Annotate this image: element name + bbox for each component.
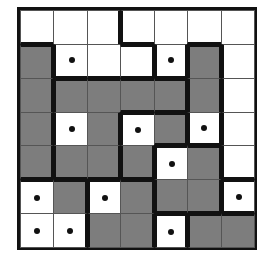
grid-cell[interactable] bbox=[221, 78, 255, 113]
grid-cell[interactable] bbox=[120, 44, 154, 79]
grid-cell[interactable] bbox=[187, 145, 221, 180]
grid-cell[interactable] bbox=[187, 179, 221, 214]
grid-cell[interactable] bbox=[154, 145, 188, 180]
grid-cell[interactable] bbox=[53, 112, 87, 147]
grid-cell[interactable] bbox=[221, 145, 255, 180]
grid-cell[interactable] bbox=[87, 10, 121, 45]
dot-marker bbox=[236, 194, 242, 200]
dot-marker bbox=[168, 229, 174, 235]
grid-cell[interactable] bbox=[87, 78, 121, 113]
grid-cell[interactable] bbox=[154, 10, 188, 45]
grid-cell[interactable] bbox=[20, 213, 54, 248]
grid-cell[interactable] bbox=[120, 78, 154, 113]
dot-marker bbox=[135, 127, 141, 133]
grid-cell[interactable] bbox=[20, 78, 54, 113]
grid-cell[interactable] bbox=[20, 179, 54, 214]
grid-cell[interactable] bbox=[221, 179, 255, 214]
grid-cell[interactable] bbox=[53, 44, 87, 79]
grid-cell[interactable] bbox=[87, 44, 121, 79]
grid-cell[interactable] bbox=[120, 213, 154, 248]
grid-cell[interactable] bbox=[53, 78, 87, 113]
grid-cell[interactable] bbox=[20, 10, 54, 45]
dot-marker bbox=[168, 57, 174, 63]
grid-cell[interactable] bbox=[87, 145, 121, 180]
grid-cell[interactable] bbox=[187, 213, 221, 248]
grid-cell[interactable] bbox=[120, 179, 154, 214]
grid-cell[interactable] bbox=[154, 78, 188, 113]
grid-cell[interactable] bbox=[87, 179, 121, 214]
grid-cell[interactable] bbox=[154, 112, 188, 147]
dot-marker bbox=[67, 228, 73, 234]
grid-cell[interactable] bbox=[120, 112, 154, 147]
dot-marker bbox=[169, 161, 175, 167]
grid-cell[interactable] bbox=[221, 213, 255, 248]
dot-marker bbox=[102, 195, 108, 201]
grid-cell[interactable] bbox=[187, 44, 221, 79]
grid-cell[interactable] bbox=[20, 145, 54, 180]
grid-cell[interactable] bbox=[154, 44, 188, 79]
dot-marker bbox=[69, 57, 75, 63]
dot-marker bbox=[201, 125, 207, 131]
grid-cell[interactable] bbox=[53, 179, 87, 214]
grid-cell[interactable] bbox=[221, 44, 255, 79]
grid-cell[interactable] bbox=[20, 44, 54, 79]
dot-marker bbox=[34, 195, 40, 201]
grid-cell[interactable] bbox=[187, 112, 221, 147]
grid-cell[interactable] bbox=[87, 112, 121, 147]
grid-cell[interactable] bbox=[53, 10, 87, 45]
grid-cell[interactable] bbox=[221, 112, 255, 147]
grid-cell[interactable] bbox=[154, 179, 188, 214]
grid-cell[interactable] bbox=[120, 145, 154, 180]
grid-cell[interactable] bbox=[187, 78, 221, 113]
grid-cell[interactable] bbox=[154, 213, 188, 248]
puzzle-grid bbox=[17, 7, 257, 250]
grid-cell[interactable] bbox=[187, 10, 221, 45]
grid-cell[interactable] bbox=[120, 10, 154, 45]
grid-cell[interactable] bbox=[221, 10, 255, 45]
grid-cell[interactable] bbox=[53, 145, 87, 180]
grid-cell[interactable] bbox=[87, 213, 121, 248]
dot-marker bbox=[34, 228, 40, 234]
grid-cell[interactable] bbox=[20, 112, 54, 147]
dot-marker bbox=[69, 126, 75, 132]
grid-cell[interactable] bbox=[53, 213, 87, 248]
